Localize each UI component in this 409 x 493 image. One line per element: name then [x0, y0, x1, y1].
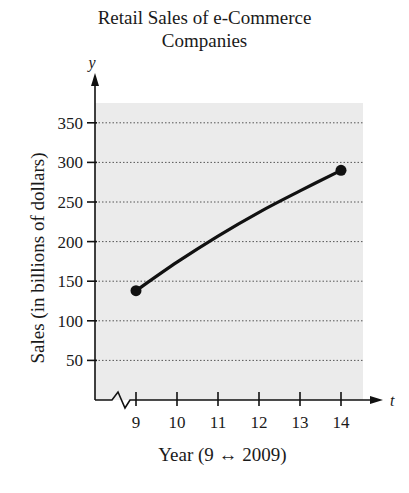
- x-axis-variable: t: [390, 392, 395, 409]
- data-point-marker: [131, 285, 142, 296]
- x-tick-label: 11: [210, 413, 226, 432]
- x-tick-label: 13: [292, 413, 309, 432]
- chart-plot: 50100150200250300350yt91011121314: [0, 0, 409, 493]
- x-tick-label: 10: [169, 413, 186, 432]
- y-tick-label: 150: [58, 272, 84, 291]
- y-tick-label: 350: [58, 114, 84, 133]
- y-axis-variable: y: [86, 54, 96, 72]
- x-tick-label: 9: [132, 413, 141, 432]
- y-tick-label: 100: [58, 312, 84, 331]
- y-tick-label: 200: [58, 233, 84, 252]
- data-point-marker: [336, 165, 347, 176]
- x-tick-label: 14: [333, 413, 351, 432]
- y-axis-arrow-icon: [91, 73, 99, 86]
- y-tick-label: 50: [66, 351, 83, 370]
- x-tick-label: 12: [251, 413, 268, 432]
- plot-background: [95, 103, 363, 400]
- y-tick-label: 250: [58, 193, 84, 212]
- y-tick-label: 300: [58, 153, 84, 172]
- x-axis-arrow-icon: [370, 396, 383, 404]
